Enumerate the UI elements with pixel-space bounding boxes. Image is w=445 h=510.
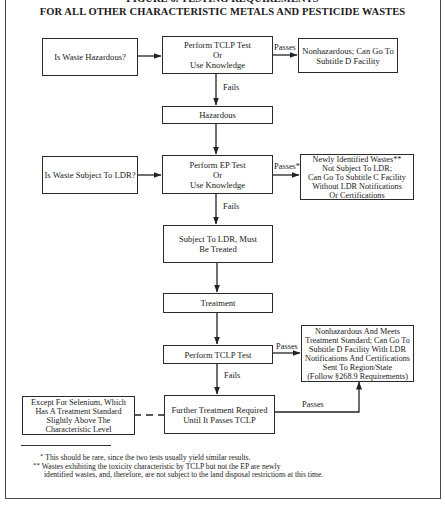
edge-label-fails-ep: Fails <box>223 202 239 211</box>
node-text: Newly Identified Wastes** Not Subject To… <box>308 155 406 200</box>
node-perform-ep-or-knowledge: Perform EP Test Or Use Knowledge <box>162 155 273 194</box>
node-text: Further Treatment Required Until It Pass… <box>172 405 268 425</box>
node-perform-tclp-test: Perform TCLP Test <box>163 345 273 364</box>
node-text: Perform TCLP Test Or Use Knowledge <box>184 40 251 70</box>
node-is-waste-hazardous: Is Waste Hazardous? <box>42 38 138 76</box>
node-subject-to-ldr-must-be-treated: Subject To LDR, Must Be Treated <box>163 225 273 263</box>
node-text: Nonhazardous And Meets Treatment Standar… <box>305 327 410 381</box>
footnote-2-mark: ** <box>33 461 40 469</box>
node-text: Is Waste Subject To LDR? <box>45 170 136 180</box>
node-nonhazardous-meets-standard: Nonhazardous And Meets Treatment Standar… <box>301 325 414 382</box>
node-hazardous: Hazardous <box>162 106 273 124</box>
node-text: Subject To LDR, Must Be Treated <box>179 234 257 254</box>
node-treatment: Treatment <box>163 293 273 313</box>
footnote-2-text-line-2: identified wastes, and, therefore, are n… <box>44 470 323 479</box>
node-text: Except For Selenium, Which Has A Treatme… <box>31 398 126 434</box>
footnote-1-mark: * <box>40 452 44 460</box>
node-is-waste-subject-to-ldr: Is Waste Subject To LDR? <box>42 156 138 194</box>
node-text: Hazardous <box>199 110 236 120</box>
node-text: Nonhazardous; Can Go To Subtitle D Facil… <box>302 46 394 66</box>
node-text: Perform EP Test Or Use Knowledge <box>189 160 245 190</box>
node-text: Treatment <box>200 298 235 308</box>
edge-label-passes-ep: Passes* <box>274 162 300 171</box>
figure-title-line-1: FIGURE 6. TESTING REQUIREMENTS <box>0 0 445 4</box>
footnote-rule <box>21 445 111 446</box>
node-text: Is Waste Hazardous? <box>54 52 126 62</box>
edge-label-passes-tclp: Passes <box>274 43 296 52</box>
node-further-treatment-required: Further Treatment Required Until It Pass… <box>164 395 275 434</box>
footnote-2-continued: identified wastes, and, therefore, are n… <box>44 470 323 479</box>
node-except-for-selenium: Except For Selenium, Which Has A Treatme… <box>22 396 135 435</box>
edge-label-passes-tclp-test: Passes <box>276 342 298 351</box>
figure-title-line-2: FOR ALL OTHER CHARACTERISTIC METALS AND … <box>0 6 445 17</box>
node-perform-tclp-or-knowledge: Perform TCLP Test Or Use Knowledge <box>162 36 273 74</box>
edge-label-passes-further: Passes <box>302 400 324 409</box>
edge-label-fails-tclp-test: Fails <box>224 371 240 380</box>
node-newly-identified-wastes: Newly Identified Wastes** Not Subject To… <box>300 154 414 200</box>
edge-label-fails-tclp: Fails <box>223 83 239 92</box>
node-nonhazardous-subtitle-d: Nonhazardous; Can Go To Subtitle D Facil… <box>298 38 398 73</box>
node-text: Perform TCLP Test <box>184 350 251 360</box>
